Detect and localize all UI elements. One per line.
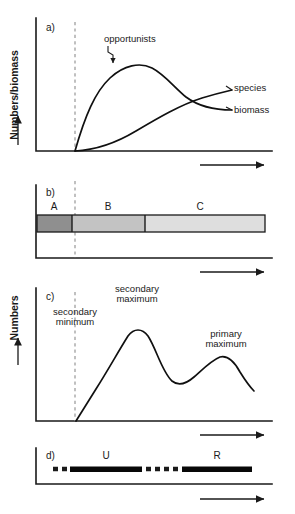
panel-a-biomass-curve	[75, 65, 232, 151]
panel-c-secondary-minimum-label-line2: minimum	[56, 316, 95, 327]
panel-b-zone-c-fill	[145, 215, 265, 232]
panel-b-zone-b-fill	[72, 215, 145, 232]
panel-d-axes	[36, 448, 272, 484]
panel-c: Numbers c) secondary minimum secondary m…	[8, 283, 272, 435]
panel-d-segment-u	[70, 467, 142, 473]
panel-c-secondary-maximum-label-line2: maximum	[116, 293, 157, 304]
figure-root: Numbers/biomass a) opportunists species …	[0, 0, 295, 514]
panel-a-species-label: species	[234, 82, 266, 93]
panel-d-tag: d)	[46, 450, 55, 461]
panel-a: Numbers/biomass a) opportunists species …	[8, 18, 272, 165]
panel-d: d) U R	[36, 448, 272, 499]
panel-a-biomass-label: biomass	[234, 104, 270, 115]
panel-d-label-u: U	[102, 450, 109, 461]
panel-b-tag: b)	[46, 187, 55, 198]
panel-b-zone-b-label: B	[105, 201, 112, 212]
panel-b-zone-a-label: A	[51, 201, 58, 212]
panel-c-tag: c)	[46, 291, 54, 302]
panel-c-primary-maximum-label-line2: maximum	[205, 338, 246, 349]
succession-figure: Numbers/biomass a) opportunists species …	[0, 0, 295, 514]
panel-a-y-axis-label-group: Numbers/biomass	[8, 50, 20, 145]
panel-b: b) A B C	[36, 181, 272, 272]
panel-c-y-axis-label-group: Numbers	[8, 295, 20, 365]
panel-c-y-axis-label: Numbers	[8, 295, 20, 340]
panel-a-species-leader	[226, 86, 232, 90]
panel-a-opportunists-leader	[108, 46, 113, 63]
panel-b-zone-a-fill	[37, 215, 72, 232]
panel-d-label-r: R	[213, 450, 220, 461]
panel-a-species-curve	[75, 90, 232, 151]
panel-a-tag: a)	[46, 22, 55, 33]
panel-a-opportunists-label: opportunists	[104, 33, 156, 44]
panel-d-segment-r	[182, 467, 252, 473]
panel-b-zone-c-label: C	[196, 201, 203, 212]
